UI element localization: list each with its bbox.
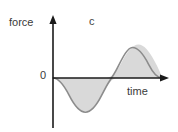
origin-label: 0 xyxy=(40,70,46,81)
force-time-graph-figure: force time 0 c xyxy=(0,0,178,132)
x-axis-arrowhead xyxy=(160,74,169,81)
y-axis-label: force xyxy=(9,17,33,28)
x-axis-label: time xyxy=(127,86,148,97)
panel-label: c xyxy=(89,16,95,27)
y-axis-arrowhead xyxy=(49,15,56,24)
